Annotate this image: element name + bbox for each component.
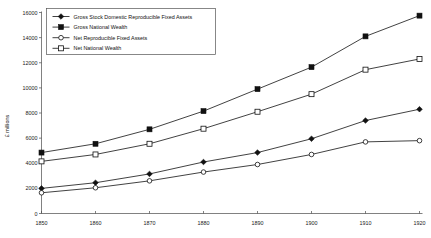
series-2 — [39, 138, 422, 195]
series-line — [42, 109, 420, 188]
data-point-marker — [39, 150, 44, 155]
legend-item-label: Gross National Wealth — [74, 24, 128, 30]
legend-item-label: Gross Stock Domestic Reproducible Fixed … — [74, 14, 193, 20]
y-axis: 0200040006000800010000120001400016000 — [23, 10, 42, 217]
data-point-marker — [93, 180, 99, 186]
data-point-marker — [255, 150, 261, 156]
y-tick-label: 10000 — [23, 85, 38, 91]
data-point-marker — [147, 171, 153, 177]
data-point-marker — [363, 67, 368, 72]
data-point-marker — [147, 179, 152, 184]
y-tick-label: 12000 — [23, 60, 38, 66]
data-point-marker — [93, 141, 98, 146]
data-point-marker — [417, 13, 422, 18]
legend-item-label: Net Reproducible Fixed Assets — [74, 35, 148, 41]
chart-legend[interactable]: Gross Stock Domestic Reproducible Fixed … — [47, 9, 216, 55]
data-point-marker — [93, 185, 98, 190]
data-point-marker — [59, 46, 64, 51]
y-tick-label: 6000 — [26, 135, 38, 141]
data-point-marker — [309, 65, 314, 70]
series-line — [42, 141, 420, 193]
y-tick-label: 2000 — [26, 185, 38, 191]
data-point-marker — [255, 162, 260, 167]
data-point-marker — [363, 118, 369, 124]
data-point-marker — [255, 109, 260, 114]
legend-item-label: Net National Wealth — [74, 45, 122, 51]
data-point-marker — [39, 190, 44, 195]
x-tick-label: 1880 — [198, 220, 210, 226]
data-point-marker — [201, 126, 206, 131]
y-tick-label: 16000 — [23, 10, 38, 16]
legend-item-0[interactable]: Gross Stock Domestic Reproducible Fixed … — [53, 14, 193, 20]
y-tick-label: 14000 — [23, 35, 38, 41]
data-point-marker — [93, 152, 98, 157]
y-tick-label: 4000 — [26, 160, 38, 166]
x-tick-label: 1910 — [360, 220, 372, 226]
data-point-marker — [309, 152, 314, 157]
x-tick-label: 1900 — [306, 220, 318, 226]
data-point-marker — [201, 159, 207, 165]
data-point-marker — [147, 127, 152, 132]
data-point-marker — [39, 159, 44, 164]
x-tick-label: 1850 — [36, 220, 48, 226]
data-point-marker — [309, 136, 315, 142]
x-tick-label: 1920 — [414, 220, 426, 226]
legend-item-3[interactable]: Net National Wealth — [53, 45, 122, 51]
legend-item-1[interactable]: Gross National Wealth — [53, 24, 128, 30]
data-point-marker — [201, 109, 206, 114]
series-3 — [39, 56, 422, 163]
series-0 — [39, 106, 423, 191]
data-point-marker — [59, 25, 64, 30]
x-tick-label: 1890 — [252, 220, 264, 226]
line-chart: £ millions 02000400060008000100001200014… — [0, 0, 431, 238]
data-point-marker — [363, 140, 368, 145]
data-point-marker — [59, 35, 64, 40]
data-point-marker — [363, 34, 368, 39]
data-point-marker — [417, 56, 422, 61]
data-point-marker — [201, 170, 206, 175]
data-point-marker — [417, 106, 423, 112]
x-tick-label: 1870 — [144, 220, 156, 226]
y-axis-title: £ millions — [4, 114, 10, 137]
data-point-marker — [147, 141, 152, 146]
data-point-marker — [309, 92, 314, 97]
y-tick-label: 8000 — [26, 110, 38, 116]
x-tick-label: 1860 — [90, 220, 102, 226]
chart-container: £ millions 02000400060008000100001200014… — [0, 0, 431, 238]
data-point-marker — [255, 87, 260, 92]
data-point-marker — [417, 138, 422, 143]
y-tick-label: 0 — [35, 211, 38, 217]
x-axis: 18501860187018801890190019101920 — [36, 211, 426, 226]
